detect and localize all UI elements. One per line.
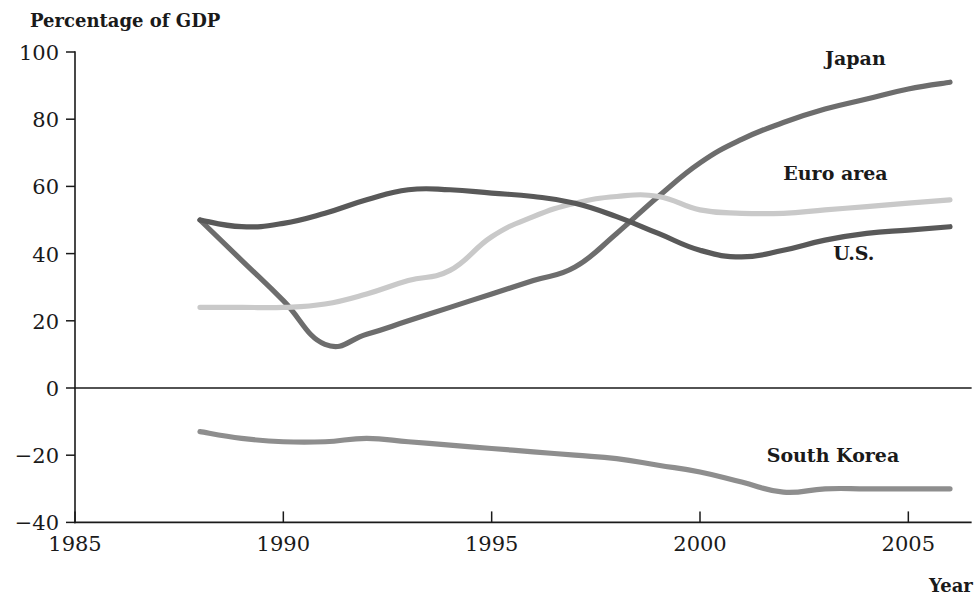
series-label-u-s: U.S. bbox=[833, 242, 874, 264]
y-tick-label-40: 40 bbox=[32, 243, 59, 267]
axes-group: 100806040200−20−4019851990199520002005 bbox=[15, 41, 971, 556]
y-tick-label-80: 80 bbox=[32, 108, 59, 132]
y-axis-title: Percentage of GDP bbox=[30, 10, 221, 31]
y-tick-label-0: 0 bbox=[46, 377, 59, 401]
chart-canvas: 100806040200−20−4019851990199520002005 J… bbox=[0, 0, 980, 610]
axis-titles-group: Percentage of GDPYear bbox=[30, 10, 973, 596]
y-tick-label-20: 20 bbox=[32, 310, 59, 334]
x-tick-label-1990: 1990 bbox=[257, 532, 310, 556]
series-label-south-korea: South Korea bbox=[767, 444, 900, 466]
x-tick-label-1985: 1985 bbox=[48, 532, 101, 556]
x-tick-label-2005: 2005 bbox=[882, 532, 935, 556]
series-label-japan: Japan bbox=[823, 47, 886, 69]
series-group bbox=[200, 82, 950, 492]
x-tick-label-1995: 1995 bbox=[465, 532, 518, 556]
y-tick-label-60: 60 bbox=[32, 175, 59, 199]
y-tick-label--20: −20 bbox=[15, 444, 59, 468]
x-axis-title: Year bbox=[928, 575, 973, 596]
gdp-debt-line-chart: 100806040200−20−4019851990199520002005 J… bbox=[0, 0, 980, 610]
series-label-euro-area: Euro area bbox=[783, 162, 887, 184]
y-tick-label-100: 100 bbox=[19, 41, 59, 65]
series-labels-group: JapanEuro areaU.S.South Korea bbox=[767, 47, 900, 465]
x-tick-label-2000: 2000 bbox=[673, 532, 726, 556]
